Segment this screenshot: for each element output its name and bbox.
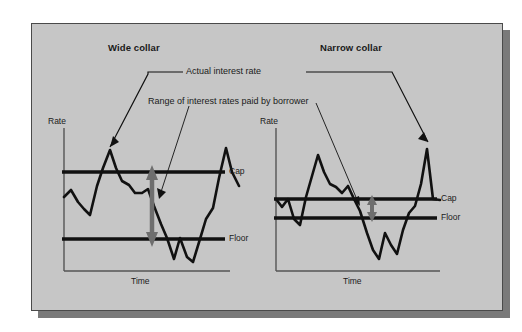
callout-leaders <box>110 72 428 206</box>
callout-actual-interest-rate-label: Actual interest rate <box>184 66 263 76</box>
callout-actual-rate-right-arrowhead <box>418 132 428 142</box>
figure-root: Wide collar Narrow collar Actual interes… <box>0 0 522 332</box>
wide-collar-range-arrow <box>146 165 158 247</box>
callout-actual-rate-left-arrowhead <box>110 136 119 147</box>
wide-collar-title: Wide collar <box>108 42 160 53</box>
wide-collar-x-axis-label: Time <box>131 276 150 286</box>
callout-actual-rate-right-leader <box>306 72 428 142</box>
wide-collar-cap-label: Cap <box>229 166 245 176</box>
narrow-collar-y-axis-label: Rate <box>260 116 278 126</box>
callout-actual-rate-left-leader <box>110 72 183 147</box>
callout-range-left-leader <box>160 103 190 195</box>
narrow-collar-floor-label: Floor <box>441 212 460 222</box>
wide-collar-y-axis-label: Rate <box>48 116 66 126</box>
narrow-collar-cap-label: Cap <box>441 193 457 203</box>
wide-collar-floor-label: Floor <box>229 233 248 243</box>
diagram-canvas <box>0 0 522 332</box>
callout-range-of-rates-label: Range of interest rates paid by borrower <box>146 96 311 106</box>
narrow-collar-title: Narrow collar <box>320 42 382 53</box>
panel-wide-collar <box>62 128 239 271</box>
narrow-collar-x-axis-label: Time <box>343 276 362 286</box>
